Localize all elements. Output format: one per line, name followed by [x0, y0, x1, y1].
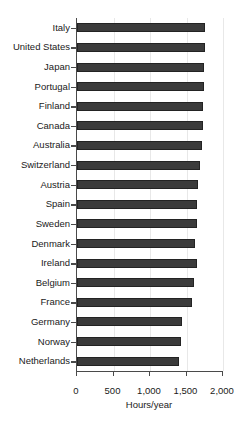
- bar-row: [77, 195, 222, 215]
- x-tick-label: 1,500: [174, 385, 198, 397]
- category-label: Portugal: [0, 82, 70, 92]
- figure-caption-sliver: [12, 429, 232, 435]
- category-label: Japan: [0, 62, 70, 72]
- plot-area: [76, 18, 222, 371]
- bar: [77, 141, 202, 150]
- category-label: Finland: [0, 101, 70, 111]
- x-tick-label: 0: [73, 385, 78, 397]
- x-tick-label: 1,000: [137, 385, 161, 397]
- bar-chart-figure: ItalyUnited StatesJapanPortugalFinlandCa…: [0, 0, 243, 435]
- category-label: France: [0, 297, 70, 307]
- bar-row: [77, 253, 222, 273]
- category-label: Germany: [0, 317, 70, 327]
- category-label: Canada: [0, 121, 70, 131]
- bar-row: [77, 116, 222, 136]
- bar-row: [77, 273, 222, 293]
- category-label: Spain: [0, 199, 70, 209]
- category-label: Ireland: [0, 258, 70, 268]
- category-label: Italy: [0, 23, 70, 33]
- bar: [77, 43, 205, 52]
- bar: [77, 180, 198, 189]
- bar: [77, 278, 194, 287]
- x-tick-label: 2,000: [210, 385, 234, 397]
- bar-row: [77, 332, 222, 352]
- category-label: Switzerland: [0, 160, 70, 170]
- bar: [77, 337, 181, 346]
- category-label: Sweden: [0, 219, 70, 229]
- x-axis-tick-marks: [76, 371, 222, 376]
- bar: [77, 357, 179, 366]
- bar: [77, 63, 204, 72]
- bar: [77, 219, 197, 228]
- bar-row: [77, 57, 222, 77]
- bar-row: [77, 155, 222, 175]
- bar: [77, 102, 203, 111]
- category-label: Norway: [0, 337, 70, 347]
- gridline: [223, 18, 224, 371]
- bar: [77, 298, 192, 307]
- bar-row: [77, 214, 222, 234]
- bar-row: [77, 312, 222, 332]
- category-label: Denmark: [0, 239, 70, 249]
- bar-row: [77, 175, 222, 195]
- x-tick: [76, 371, 77, 376]
- bar-row: [77, 136, 222, 156]
- x-tick: [222, 371, 223, 376]
- bar-series: [77, 18, 222, 371]
- x-tick: [149, 371, 150, 376]
- category-label: Austria: [0, 180, 70, 190]
- category-axis-labels: ItalyUnited StatesJapanPortugalFinlandCa…: [0, 18, 70, 371]
- bar-row: [77, 351, 222, 371]
- bar-row: [77, 234, 222, 254]
- category-label: Australia: [0, 140, 70, 150]
- x-tick: [186, 371, 187, 376]
- bar-row: [77, 77, 222, 97]
- bar: [77, 82, 204, 91]
- category-label: Netherlands: [0, 356, 70, 366]
- bar-row: [77, 293, 222, 313]
- category-label: United States: [0, 42, 70, 52]
- bar: [77, 239, 195, 248]
- bar: [77, 200, 197, 209]
- bar: [77, 121, 203, 130]
- x-tick: [113, 371, 114, 376]
- bar-row: [77, 38, 222, 58]
- bar-row: [77, 96, 222, 116]
- bar: [77, 23, 205, 32]
- bar-row: [77, 18, 222, 38]
- bar: [77, 317, 182, 326]
- category-label: Belgium: [0, 278, 70, 288]
- x-tick-label: 500: [105, 385, 121, 397]
- x-axis-title: Hours/year: [76, 399, 222, 411]
- bar: [77, 259, 197, 268]
- x-axis-tick-labels: 05001,0001,5002,000: [0, 385, 243, 397]
- bar: [77, 161, 200, 170]
